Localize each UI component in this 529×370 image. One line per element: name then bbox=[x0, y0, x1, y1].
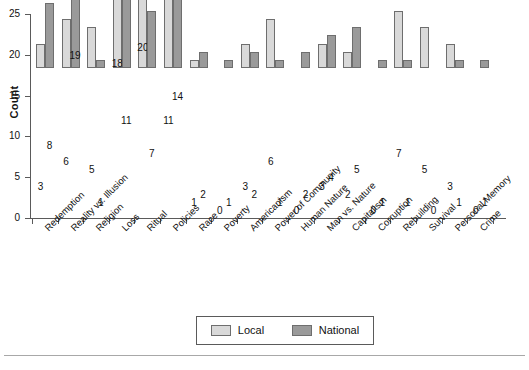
bar-local bbox=[420, 27, 429, 68]
bar-value-label: 5 bbox=[83, 165, 101, 175]
bar-local bbox=[394, 11, 403, 68]
bar-value-label: 6 bbox=[262, 157, 280, 167]
bar-value-label: 3 bbox=[32, 182, 50, 192]
bar-national bbox=[173, 0, 182, 68]
bar-value-label: 6 bbox=[57, 157, 75, 167]
legend-swatch-local-icon bbox=[211, 325, 231, 336]
bar-national bbox=[250, 52, 259, 68]
bar-value-label: 7 bbox=[390, 149, 408, 159]
bar-value-label: 19 bbox=[66, 51, 84, 61]
bar-national bbox=[147, 11, 156, 68]
bar-local bbox=[164, 0, 173, 68]
bar-national bbox=[224, 60, 233, 68]
bar-local bbox=[318, 44, 327, 68]
bar-chart-figure: Count 0510152025 38619511811207111412013… bbox=[0, 0, 529, 370]
bar-national bbox=[480, 60, 489, 68]
bar-value-label: 5 bbox=[348, 165, 366, 175]
bar-national bbox=[301, 52, 310, 68]
bar-value-label: 11 bbox=[160, 116, 178, 126]
legend-entry-national: National bbox=[292, 325, 359, 336]
legend-label-local: Local bbox=[238, 325, 264, 336]
bar-national bbox=[403, 60, 412, 68]
bar-local bbox=[190, 60, 199, 68]
bar-value-label: 2 bbox=[245, 190, 263, 200]
bar-national bbox=[327, 35, 336, 68]
bar-local bbox=[343, 52, 352, 68]
plot-area: 3861951181120711141201326102342501715031… bbox=[0, 0, 529, 219]
bar-value-label: 1 bbox=[220, 198, 238, 208]
bottom-divider bbox=[4, 355, 525, 356]
bar-national bbox=[96, 60, 105, 68]
legend-entry-local: Local bbox=[211, 325, 264, 336]
bar-national bbox=[45, 3, 54, 68]
bar-national bbox=[455, 60, 464, 68]
legend-swatch-national-icon bbox=[292, 325, 312, 336]
bar-local bbox=[138, 0, 147, 68]
chart-legend: Local National bbox=[196, 316, 374, 345]
bar-national bbox=[378, 60, 387, 68]
bar-value-label: 14 bbox=[169, 92, 187, 102]
bar-local bbox=[266, 19, 275, 68]
bar-value-label: 8 bbox=[41, 141, 59, 151]
legend-label-national: National bbox=[319, 325, 359, 336]
bar-value-label: 3 bbox=[441, 182, 459, 192]
bar-value-label: 7 bbox=[143, 149, 161, 159]
bar-national bbox=[352, 27, 361, 68]
bar-national bbox=[122, 0, 131, 68]
bar-national bbox=[275, 60, 284, 68]
bar-national bbox=[199, 52, 208, 68]
bar-local bbox=[446, 44, 455, 68]
bar-local bbox=[36, 44, 45, 68]
bar-value-label: 11 bbox=[117, 116, 135, 126]
bar-value-label: 2 bbox=[194, 190, 212, 200]
bar-value-label: 5 bbox=[416, 165, 434, 175]
bar-local bbox=[241, 44, 250, 68]
x-tick-mark bbox=[32, 219, 33, 224]
bar-local bbox=[87, 27, 96, 68]
